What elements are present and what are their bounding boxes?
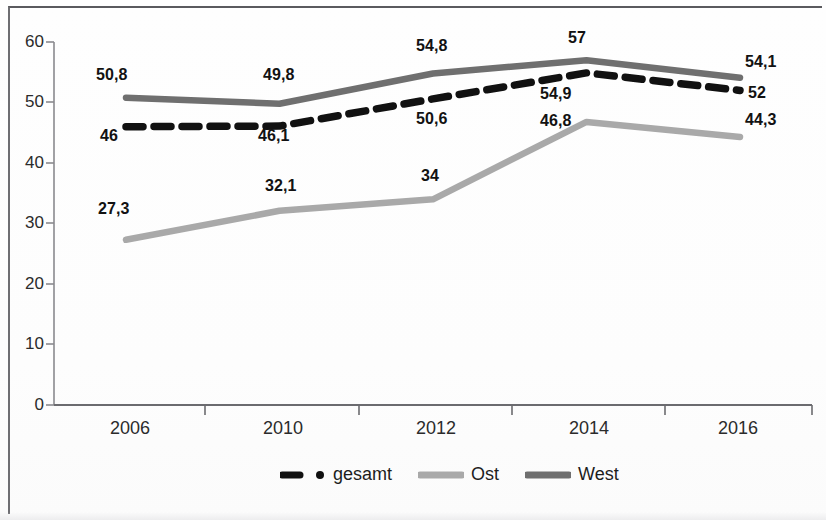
data-label-ost-2012: 34 — [421, 167, 439, 185]
data-label-west-2014: 57 — [568, 29, 586, 47]
chart-legend: gesamt Ost West — [280, 464, 619, 485]
data-label-ost-2010: 32,1 — [265, 177, 297, 195]
legend-label-ost: Ost — [471, 464, 499, 485]
data-label-gesamt-2006: 46 — [100, 127, 118, 145]
y-tick-label-50: 50 — [6, 92, 44, 112]
y-tick-label-60: 60 — [6, 32, 44, 52]
y-axis-ticks — [46, 42, 54, 405]
legend-label-gesamt: gesamt — [333, 464, 392, 485]
y-tick-label-20: 20 — [6, 274, 44, 294]
legend-item-ost[interactable]: Ost — [418, 464, 499, 485]
x-tick-label-2010: 2010 — [223, 418, 343, 439]
legend-item-gesamt[interactable]: gesamt — [280, 464, 392, 485]
light-gray-line-swatch — [418, 469, 464, 481]
x-tick-label-2006: 2006 — [70, 418, 190, 439]
data-label-west-2012: 54,8 — [416, 37, 448, 55]
data-label-ost-2016: 44,3 — [745, 111, 777, 129]
y-tick-label-0: 0 — [6, 395, 44, 415]
data-label-west-2010: 49,8 — [263, 66, 295, 84]
chart-page: 60 50 40 30 20 10 0 2006 2010 2012 2014 … — [0, 0, 826, 520]
legend-item-west[interactable]: West — [525, 464, 619, 485]
x-axis-ticks — [205, 405, 812, 415]
data-label-gesamt-2012: 50,6 — [416, 110, 448, 128]
x-tick-label-2016: 2016 — [678, 418, 798, 439]
scan-noise-artifact — [0, 512, 826, 520]
data-label-ost-2006: 27,3 — [98, 200, 130, 218]
data-label-west-2006: 50,8 — [96, 66, 128, 84]
legend-label-west: West — [578, 464, 619, 485]
data-label-gesamt-2014: 54,9 — [540, 85, 572, 103]
dashed-black-line-swatch — [280, 469, 326, 481]
data-label-gesamt-2016: 52 — [748, 84, 766, 102]
data-label-gesamt-2010: 46,1 — [258, 127, 290, 145]
y-tick-label-40: 40 — [6, 153, 44, 173]
data-label-ost-2014: 46,8 — [540, 112, 572, 130]
y-tick-label-10: 10 — [6, 334, 44, 354]
dark-gray-line-swatch — [525, 469, 571, 481]
x-tick-label-2012: 2012 — [376, 418, 496, 439]
x-tick-label-2014: 2014 — [529, 418, 649, 439]
y-tick-label-30: 30 — [6, 213, 44, 233]
data-label-west-2016: 54,1 — [745, 53, 777, 71]
